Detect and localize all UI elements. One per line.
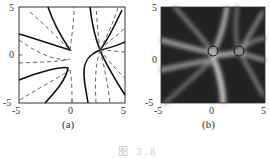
- y-tick-0: 0: [9, 50, 14, 60]
- y-tick-neg5: -5: [145, 98, 153, 108]
- x-tick-5: 5: [121, 106, 126, 116]
- subfigure-label-a: (a): [62, 118, 74, 130]
- figure-caption: 图 3.8: [118, 143, 158, 158]
- y-tick-neg5: -5: [3, 98, 11, 108]
- subfigure-label-b: (b): [202, 118, 215, 130]
- x-tick-0: 0: [68, 106, 73, 116]
- panel-a: 5 0 -5 -5 0 5 (a): [0, 0, 135, 125]
- x-tick-neg5: -5: [12, 106, 20, 116]
- x-tick-neg5: -5: [154, 106, 162, 116]
- x-tick-0: 0: [209, 106, 214, 116]
- y-tick-5: 5: [152, 3, 157, 13]
- y-tick-5: 5: [9, 3, 14, 13]
- panel-b: 5 0 -5 -5 0 5 (b): [135, 0, 270, 125]
- y-tick-0: 0: [152, 55, 157, 65]
- contour-plot-a: [0, 0, 135, 110]
- x-tick-5: 5: [261, 106, 266, 116]
